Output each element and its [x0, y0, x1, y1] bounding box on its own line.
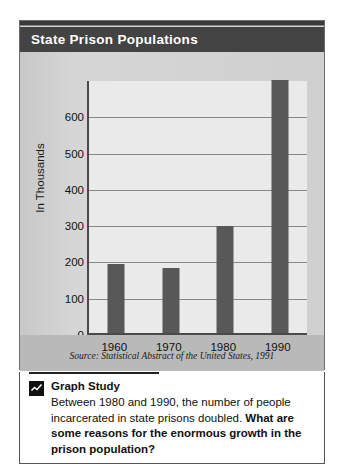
graph-study-box: Graph Study Between 1980 and 1990, the n… — [19, 372, 325, 464]
bar — [271, 80, 288, 333]
bar-series — [89, 81, 307, 333]
study-heading: Graph Study — [51, 379, 315, 394]
bar — [217, 226, 234, 333]
y-tick-label: 100 — [65, 293, 84, 305]
chart-title: State Prison Populations — [20, 32, 198, 47]
study-body: Between 1980 and 1990, the number of peo… — [51, 395, 315, 457]
line-chart-icon — [29, 381, 44, 396]
y-tick-label: 600 — [65, 111, 84, 123]
figure-page: State Prison Populations In Thousands 01… — [0, 0, 343, 467]
title-bar-top-accent — [20, 21, 324, 26]
chart-figure: State Prison Populations In Thousands 01… — [19, 20, 325, 370]
bar — [162, 268, 179, 333]
chart-title-bar: State Prison Populations — [20, 27, 324, 52]
y-tick-label: 300 — [65, 220, 84, 232]
plot-area: 0100200300400500600 — [87, 81, 307, 335]
y-tick-label: 200 — [65, 256, 84, 268]
chart-body: In Thousands 0100200300400500600 1960197… — [20, 52, 324, 371]
y-axis-label: In Thousands — [34, 130, 46, 226]
source-note: Source: Statistical Abstract of the Unit… — [20, 351, 324, 361]
study-divider — [29, 372, 159, 374]
bar — [108, 264, 125, 333]
y-tick-label: 500 — [65, 148, 84, 160]
y-tick-label: 400 — [65, 184, 84, 196]
study-content: Graph Study Between 1980 and 1990, the n… — [29, 379, 315, 457]
